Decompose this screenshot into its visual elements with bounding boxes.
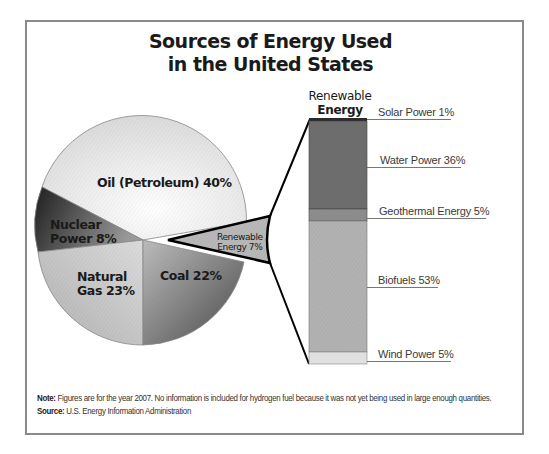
label-water: Water Power 36% <box>380 154 465 166</box>
label-solar: Solar Power 1% <box>378 106 454 118</box>
note-text: Figures are for the year 2007. No inform… <box>56 393 492 403</box>
label-geothermal: Geothermal Energy 5% <box>379 205 489 217</box>
label-renewable-line-2: Energy 7% <box>217 242 263 252</box>
label-nuclear: Nuclear Power 8% <box>50 218 116 246</box>
label-renewable-line-1: Renewable <box>217 232 263 242</box>
source-line: Source: U.S. Energy Information Administ… <box>37 405 521 418</box>
chart-footnote: Note: Figures are for the year 2007. No … <box>37 392 521 418</box>
note-label: Note: <box>37 393 56 403</box>
note-line: Note: Figures are for the year 2007. No … <box>37 392 521 405</box>
connector-line-bottom <box>270 263 309 364</box>
connector-line-top <box>270 119 310 216</box>
bar-segment-wind <box>309 352 367 364</box>
renewable-stacked-bar <box>309 118 367 364</box>
label-biofuels: Biofuels 53% <box>378 274 440 286</box>
label-renewable: Renewable Energy 7% <box>217 232 263 252</box>
label-gas-line-1: Natural <box>77 270 135 284</box>
label-nuclear-line-1: Nuclear <box>50 218 116 232</box>
label-wind: Wind Power 5% <box>378 348 454 360</box>
label-gas-line-2: Gas 23% <box>77 284 135 298</box>
label-natural-gas: Natural Gas 23% <box>77 270 135 298</box>
label-nuclear-line-2: Power 8% <box>50 232 116 246</box>
bar-segment-geothermal <box>309 209 367 221</box>
source-label: Source: <box>37 406 64 416</box>
label-oil: Oil (Petroleum) 40% <box>97 176 232 190</box>
label-coal: Coal 22% <box>160 269 222 283</box>
bar-segment-solar <box>309 118 367 121</box>
source-text: U.S. Energy Information Administration <box>64 406 191 416</box>
